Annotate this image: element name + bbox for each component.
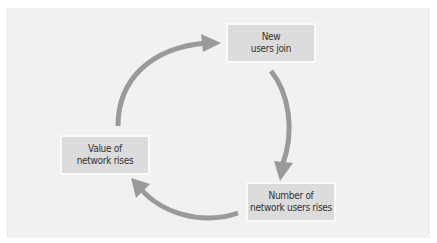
node-label-line2: users join (251, 43, 291, 55)
arrow-new-to-number (271, 71, 289, 166)
node-label-line2: network rises (77, 155, 134, 167)
node-number-of-users-rises: Number of network users rises (246, 182, 336, 222)
node-new-users-join: New users join (226, 23, 316, 63)
node-label-line1: Number of (269, 190, 314, 202)
node-label-line1: Value of (88, 143, 122, 155)
node-label-line1: New (262, 31, 281, 43)
arrowhead-new (201, 34, 221, 52)
cycle-arrows (0, 0, 437, 243)
node-value-of-network-rises: Value of network rises (60, 135, 150, 175)
node-label-line2: network users rises (250, 202, 332, 214)
arrowhead-number (274, 161, 293, 181)
arrow-value-to-new (118, 43, 206, 126)
arrow-number-to-value (140, 188, 238, 218)
